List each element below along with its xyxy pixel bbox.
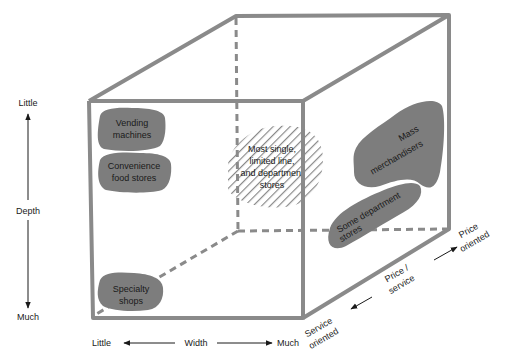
region-convenience-food-stores: Convenience food stores <box>98 153 171 193</box>
region-specialty-line1: Specialty <box>113 284 150 294</box>
width-axis: Little Width Much <box>92 338 299 348</box>
retail-strategy-cube-diagram: Most single, limited line, and departmen… <box>0 0 511 361</box>
region-most-single-limited-department: Most single, limited line, and departmen… <box>228 126 323 208</box>
depth-axis-label: Depth <box>16 206 40 216</box>
region-vending-machines: Vending machines <box>98 108 166 151</box>
width-axis-left-label: Little <box>92 338 111 348</box>
depth-axis-bottom-label: Much <box>17 312 39 322</box>
region-most-single-line4: stores <box>260 180 285 190</box>
depth-axis-top-label: Little <box>18 98 37 108</box>
region-vending-line2: machines <box>113 130 152 140</box>
width-axis-label: Width <box>184 338 207 348</box>
region-some-department-stores: Some department stores <box>328 183 421 248</box>
depth-axis: Little Depth Much <box>16 98 40 322</box>
region-mass-merchandisers: Mass merchandisers <box>354 101 445 188</box>
region-most-single-line2: limited line, <box>249 156 294 166</box>
region-vending-line1: Vending <box>116 118 149 128</box>
region-specialty-shops: Specialty shops <box>98 273 163 311</box>
region-specialty-line2: shops <box>119 296 144 306</box>
region-convenience-line1: Convenience <box>108 161 161 171</box>
region-most-single-line3: and department <box>240 168 304 178</box>
region-most-single-line1: Most single, <box>248 144 296 154</box>
region-convenience-line2: food stores <box>112 173 157 183</box>
width-axis-right-label: Much <box>277 338 299 348</box>
